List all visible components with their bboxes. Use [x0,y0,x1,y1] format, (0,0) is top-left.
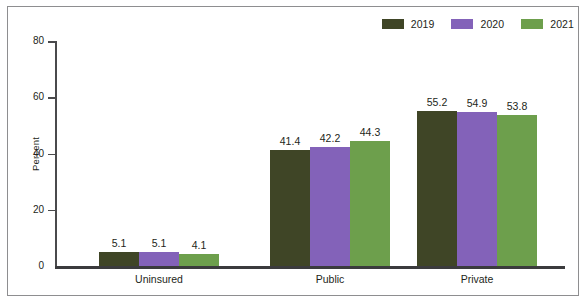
bar-private-2019[interactable]: 55.2 [417,111,457,266]
y-tick-80: 80 [48,41,55,43]
y-tick-label-0: 0 [38,260,44,271]
bar-value-private-2021: 53.8 [507,100,527,112]
bar-uninsured-2019[interactable]: 5.1 [99,252,139,266]
bar-public-2020[interactable]: 42.2 [310,147,350,266]
legend-item-2020[interactable]: 2020 [451,19,504,30]
bar-private-2020[interactable]: 54.9 [457,112,497,266]
legend-label-2020: 2020 [480,19,504,30]
y-tick-label-20: 20 [33,204,44,215]
bar-value-uninsured-2020: 5.1 [152,237,167,249]
y-tick-20: 20 [48,210,55,212]
bar-value-uninsured-2021: 4.1 [192,239,207,251]
chart-legend: 2019 2020 2021 [382,19,574,30]
bar-value-public-2019: 41.4 [280,135,300,147]
legend-swatch-2020 [451,19,473,29]
bar-private-2021[interactable]: 53.8 [497,115,537,266]
y-axis-line [55,41,57,267]
bar-public-2021[interactable]: 44.3 [350,141,390,266]
bar-value-public-2020: 42.2 [320,132,340,144]
legend-swatch-2019 [382,19,404,29]
plot-area: 80 60 40 20 0 5.1 5.1 4.1 41.4 42.2 [55,41,565,267]
bar-uninsured-2020[interactable]: 5.1 [139,252,179,266]
x-axis-line [55,266,565,269]
legend-swatch-2021 [521,19,543,29]
y-tick-label-60: 60 [33,91,44,102]
bar-uninsured-2021[interactable]: 4.1 [179,254,219,266]
legend-item-2021[interactable]: 2021 [521,19,574,30]
chart-figure: 2019 2020 2021 Percent 80 60 40 20 0 [0,0,586,307]
y-tick-60: 60 [48,97,55,99]
bar-value-private-2019: 55.2 [427,96,447,108]
legend-label-2019: 2019 [411,19,435,30]
y-tick-40: 40 [48,154,55,156]
y-tick-label-40: 40 [33,148,44,159]
x-label-uninsured: Uninsured [135,273,183,285]
x-label-public: Public [316,273,345,285]
x-label-private: Private [461,273,494,285]
legend-label-2021: 2021 [550,19,574,30]
bar-public-2019[interactable]: 41.4 [270,150,310,266]
y-tick-label-80: 80 [33,35,44,46]
legend-item-2019[interactable]: 2019 [382,19,435,30]
bar-value-public-2021: 44.3 [360,126,380,138]
bar-value-private-2020: 54.9 [467,97,487,109]
bar-value-uninsured-2019: 5.1 [112,237,127,249]
